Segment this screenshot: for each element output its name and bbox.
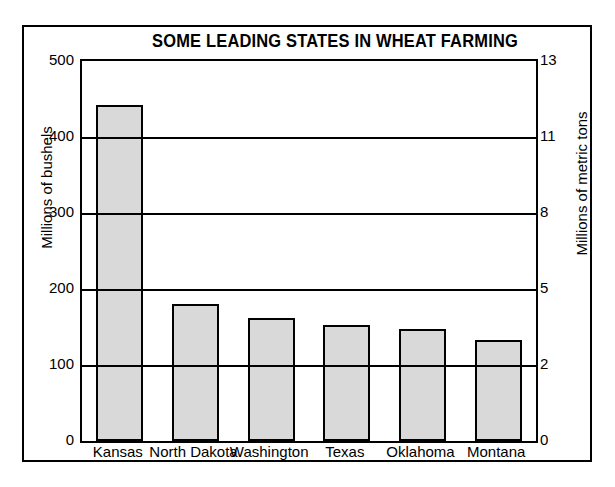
gridline-100 [80, 365, 538, 367]
bar-texas [323, 325, 370, 441]
bar-montana [475, 340, 522, 441]
bar-washington [248, 318, 295, 441]
right-tick-label-11: 11 [540, 128, 556, 143]
bar-oklahoma [399, 329, 446, 441]
right-tick-label-5: 5 [540, 280, 548, 295]
category-axis-labels: KansasNorth DakotaWashingtonTexasOklahom… [80, 442, 538, 466]
plot-area [80, 59, 538, 443]
right-axis-title: Millions of metric tons [573, 79, 590, 289]
bar-kansas [96, 105, 143, 441]
gridline-300 [80, 213, 538, 215]
chart-frame: SOME LEADING STATES IN WHEAT FARMING 010… [22, 25, 592, 462]
left-tick-label-500: 500 [49, 52, 74, 67]
category-label-montana: Montana [450, 442, 542, 462]
left-axis-title: Millions of bushels [38, 88, 55, 288]
right-tick-label-13: 13 [540, 52, 557, 67]
gridline-400 [80, 137, 538, 139]
chart-title: SOME LEADING STATES IN WHEAT FARMING [95, 31, 574, 52]
right-tick-label-8: 8 [540, 204, 548, 219]
plot-inner [82, 61, 536, 441]
right-tick-label-2: 2 [540, 356, 548, 371]
bar-north-dakota [172, 304, 219, 441]
left-tick-label-100: 100 [49, 356, 74, 371]
gridline-200 [80, 289, 538, 291]
